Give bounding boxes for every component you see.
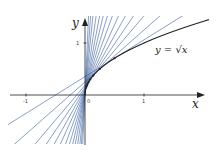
curve-label: y = √x [155, 44, 187, 55]
tangent-point [89, 78, 91, 80]
tangent-lines [0, 0, 203, 150]
y-axis-label: y [72, 16, 79, 30]
x-tick-0: 0 [87, 98, 90, 104]
x-tick-minus1: -1 [23, 98, 28, 104]
tangent-point [85, 86, 87, 88]
x-tick-1: 1 [142, 98, 145, 104]
tangent-point [87, 81, 89, 83]
y-tick-1: 1 [76, 40, 79, 46]
tangent-point [113, 57, 115, 59]
sqrt-curve [85, 20, 209, 95]
tangent-plot [0, 0, 217, 150]
y-axis-arrow-icon [82, 18, 88, 26]
diagram: y x y = √x -1 0 1 1 [0, 0, 217, 150]
x-axis-label: x [192, 97, 199, 111]
tangent-line [0, 0, 203, 150]
tangent-point [86, 84, 88, 86]
tangent-point [99, 68, 101, 70]
tangent-point [92, 74, 94, 76]
